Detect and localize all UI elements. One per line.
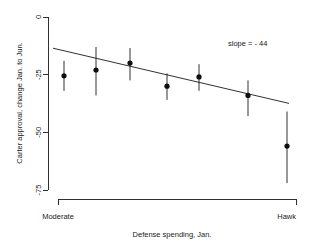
y-tick-label-minus50: -50 [34, 127, 43, 138]
x-axis-title: Defense spending, Jan. [133, 230, 212, 239]
x-axis-bracket [58, 199, 296, 205]
data-point [93, 67, 98, 72]
data-point [196, 74, 201, 79]
scatter-plot: 0 -25 -50 -75 Carter approval, change Ja… [0, 0, 311, 245]
y-axis-title: Carter approval, change Jan. to Jun. [15, 42, 24, 163]
data-point [61, 73, 66, 78]
data-point [127, 61, 132, 66]
slope-annotation: slope = - 44 [228, 39, 267, 48]
x-tick-label-hawk: Hawk [277, 212, 296, 221]
chart-container: 0 -25 -50 -75 Carter approval, change Ja… [0, 0, 311, 245]
y-tick-label-minus75: -75 [34, 185, 43, 196]
regression-line [53, 48, 289, 103]
data-point [164, 84, 169, 89]
data-point [284, 144, 289, 149]
y-tick-label-minus25: -25 [34, 69, 43, 80]
x-tick-label-moderate: Moderate [42, 212, 74, 221]
y-tick-label-0: 0 [34, 15, 43, 19]
data-point [245, 93, 250, 98]
